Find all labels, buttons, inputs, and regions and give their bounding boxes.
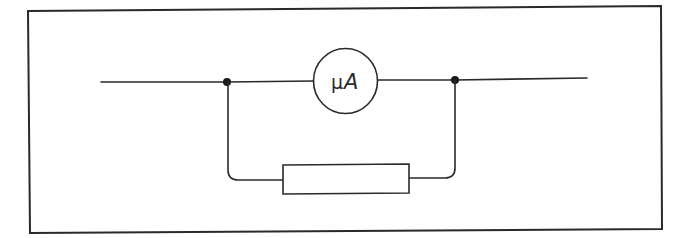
meter-label-unit: A [342, 70, 358, 94]
left-junction-dot [223, 78, 231, 86]
diagram-frame [28, 6, 662, 233]
wire-output-lead [455, 78, 587, 80]
meter-label-prefix: μ [331, 71, 343, 93]
wire-shunt-right [409, 80, 455, 178]
wire-junction-to-meter [227, 81, 313, 82]
shunt-resistor [283, 164, 409, 194]
circuit-diagram: μ A [0, 0, 689, 238]
microammeter: μ A [314, 49, 378, 114]
wire-shunt-left [228, 82, 283, 180]
